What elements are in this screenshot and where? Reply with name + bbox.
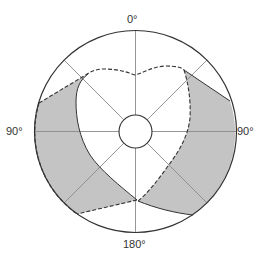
polar-diagram xyxy=(0,0,267,262)
label-90-degrees-right: 90° xyxy=(237,125,254,137)
label-0-degrees: 0° xyxy=(127,13,138,25)
left-shaded-region xyxy=(35,74,137,214)
inner-circle xyxy=(119,115,152,148)
label-180-degrees: 180° xyxy=(123,238,146,250)
label-90-degrees-left: 90° xyxy=(6,125,23,137)
right-shaded-region xyxy=(138,70,235,215)
